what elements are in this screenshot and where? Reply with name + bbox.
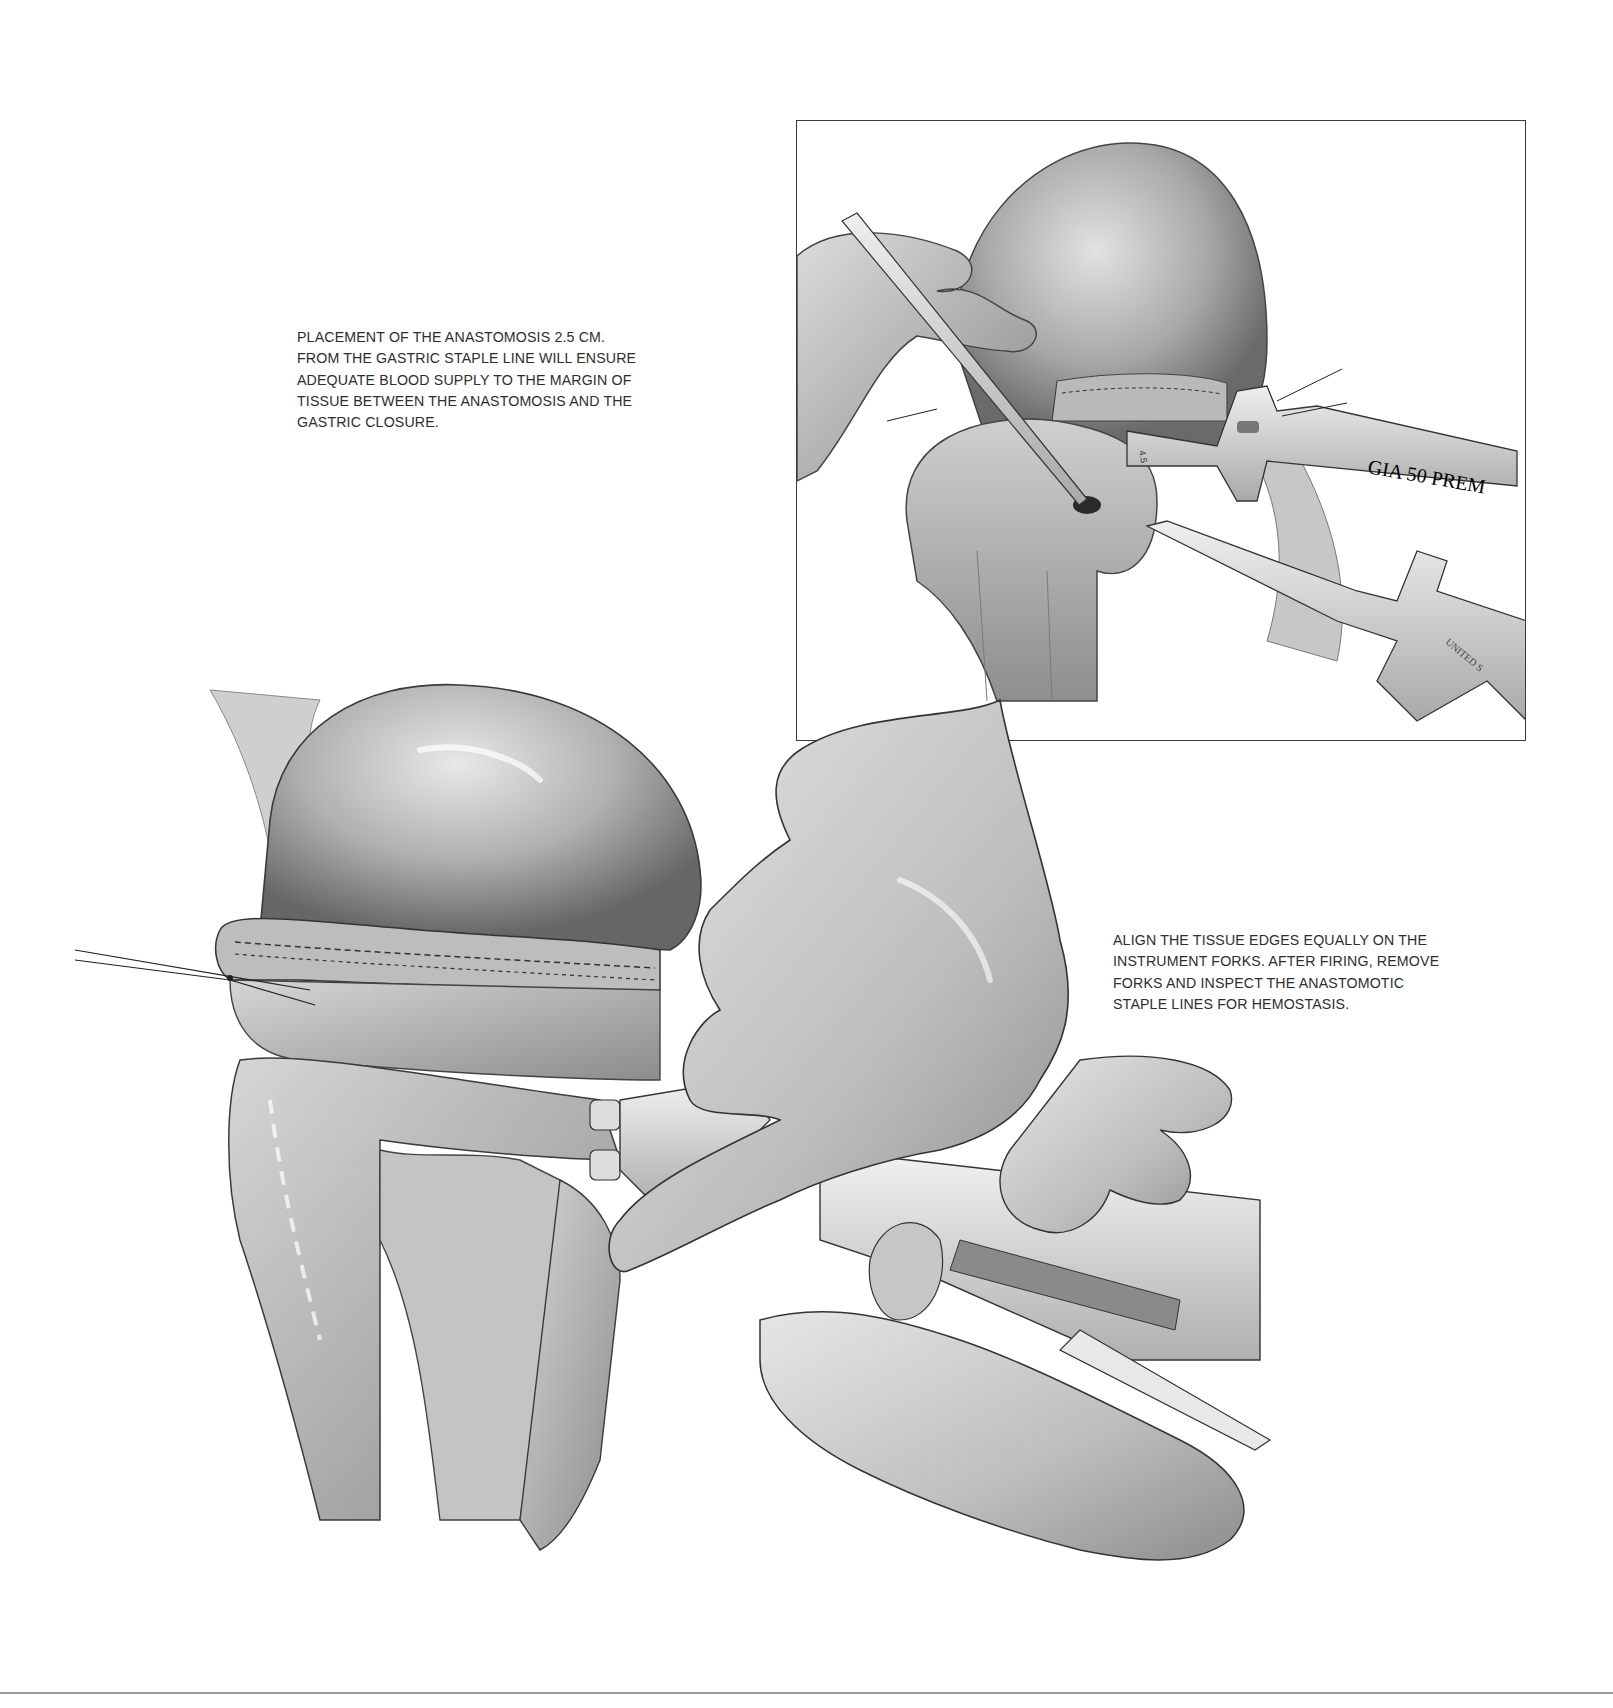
caption-anastomosis-placement: PLACEMENT OF THE ANASTOMOSIS 2.5 CM. FRO… <box>297 327 737 433</box>
stapler-marking: 4.5 <box>1137 450 1149 464</box>
main-illustration: WBaker <box>0 680 1613 1640</box>
inset-illustration: GIA 50 PREM 4.5 UNITED S <box>797 121 1526 741</box>
inset-illustration-frame: GIA 50 PREM 4.5 UNITED S <box>796 120 1526 741</box>
main-illustration-svg: WBaker <box>0 680 1613 1640</box>
page-bottom-rule <box>0 1692 1613 1694</box>
caption-align-tissue-edges: ALIGN THE TISSUE EDGES EQUALLY ON THE IN… <box>1113 930 1553 1015</box>
